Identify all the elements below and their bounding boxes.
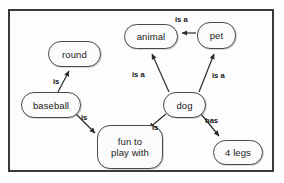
edge-label-dog-fun-to-play-with: is bbox=[152, 124, 158, 132]
node-dog-label: dog bbox=[176, 100, 192, 111]
edge-label-baseball-fun-to-play-with: is bbox=[81, 114, 87, 122]
diagram-canvas: animal pet round dog baseball fun to pla… bbox=[0, 0, 284, 183]
node-animal-label: animal bbox=[137, 31, 166, 42]
node-round-label: round bbox=[62, 49, 87, 60]
node-4-legs-label: 4 legs bbox=[225, 147, 251, 158]
node-pet-label: pet bbox=[210, 30, 224, 41]
node-pet[interactable]: pet bbox=[197, 22, 236, 49]
edge-label-dog-pet: is a bbox=[212, 72, 225, 80]
node-baseball-label: baseball bbox=[33, 100, 69, 111]
node-round[interactable]: round bbox=[48, 41, 101, 67]
edge-label-pet-animal: is a bbox=[175, 16, 188, 24]
node-4-legs[interactable]: 4 legs bbox=[213, 140, 263, 165]
node-animal[interactable]: animal bbox=[124, 24, 178, 49]
edge-label-baseball-round: is bbox=[53, 78, 59, 86]
edge-baseball-round bbox=[58, 71, 69, 92]
node-fun-to-play-with-label: fun to play with bbox=[111, 136, 149, 158]
node-baseball[interactable]: baseball bbox=[21, 92, 81, 118]
edge-label-dog-animal: is a bbox=[132, 71, 145, 79]
node-dog[interactable]: dog bbox=[163, 92, 206, 118]
edge-dog-animal bbox=[152, 54, 169, 92]
edge-label-dog-4-legs: has bbox=[205, 117, 218, 125]
